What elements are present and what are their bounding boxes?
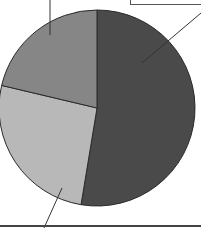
pie-slices (0, 10, 195, 206)
bottom-divider (0, 225, 201, 227)
pie-slice-0 (81, 10, 195, 206)
pie-chart (0, 0, 201, 228)
slice-label-box (130, 0, 201, 5)
